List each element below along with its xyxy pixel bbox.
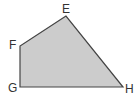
vertex-label-f: F bbox=[9, 38, 16, 52]
vertex-label-e: E bbox=[62, 2, 70, 16]
vertex-label-h: H bbox=[125, 82, 134, 96]
quadrilateral-diagram: E F G H bbox=[0, 0, 138, 97]
quadrilateral-efgh bbox=[20, 16, 123, 87]
vertex-label-g: G bbox=[8, 81, 17, 95]
